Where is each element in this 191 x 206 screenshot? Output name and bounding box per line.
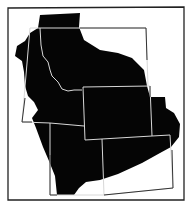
map-figure: [0, 0, 191, 206]
map-canvas: [0, 0, 191, 206]
